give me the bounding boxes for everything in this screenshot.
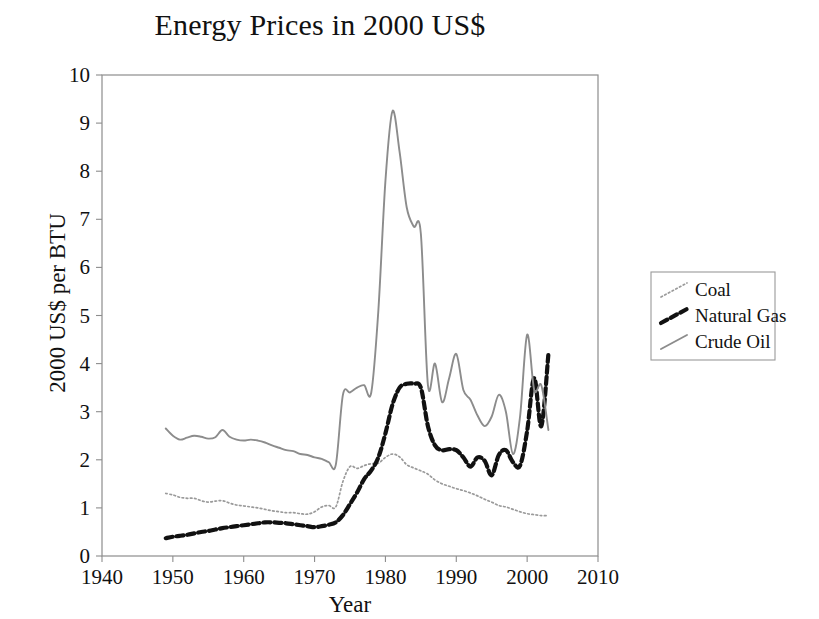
y-tick-label: 5	[80, 304, 91, 328]
x-axis-ticks: 19401950196019701980199020002010	[81, 556, 619, 589]
y-tick-label: 3	[80, 400, 91, 424]
legend-label-coal: Coal	[695, 279, 731, 300]
y-tick-label: 4	[80, 352, 91, 376]
x-tick-label: 1980	[364, 565, 406, 589]
x-tick-label: 1960	[223, 565, 265, 589]
y-tick-label: 8	[80, 159, 91, 183]
legend-label-crude-oil: Crude Oil	[695, 331, 770, 352]
chart-legend: CoalNatural GasCrude Oil	[651, 272, 786, 360]
y-tick-label: 6	[80, 255, 91, 279]
x-tick-label: 1950	[152, 565, 194, 589]
plot-area: 012345678910 194019501960197019801990200…	[0, 0, 819, 619]
x-tick-label: 1970	[294, 565, 336, 589]
y-tick-label: 2	[80, 448, 91, 472]
x-tick-label: 1940	[81, 565, 123, 589]
x-tick-label: 2000	[506, 565, 548, 589]
x-tick-label: 2010	[577, 565, 619, 589]
y-tick-label: 9	[80, 111, 91, 135]
y-axis-ticks: 012345678910	[69, 63, 102, 568]
y-tick-label: 10	[69, 63, 90, 87]
y-tick-label: 7	[80, 207, 91, 231]
x-tick-label: 1990	[435, 565, 477, 589]
chart-figure: Energy Prices in 2000 US$ 2000 US$ per B…	[0, 0, 819, 619]
plot-frame	[102, 75, 598, 556]
y-tick-label: 1	[80, 496, 91, 520]
legend-label-natural-gas: Natural Gas	[695, 305, 786, 326]
